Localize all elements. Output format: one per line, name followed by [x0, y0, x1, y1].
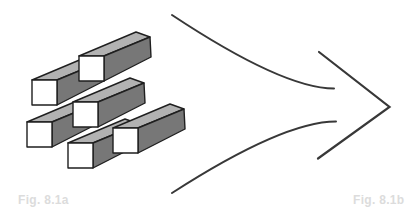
- upper-streamline: [172, 15, 334, 89]
- arrowhead: [318, 52, 390, 159]
- fig-label-a: Fig. 8.1a: [18, 193, 69, 207]
- figure-svg: [0, 0, 415, 209]
- figure-canvas: Fig. 8.1a Fig. 8.1b: [0, 0, 415, 209]
- bar-2: [79, 32, 151, 81]
- arrow-figure: [172, 15, 390, 193]
- bars-figure: [27, 32, 185, 168]
- lower-streamline: [172, 122, 336, 194]
- fig-label-b: Fig. 8.1b: [353, 193, 404, 207]
